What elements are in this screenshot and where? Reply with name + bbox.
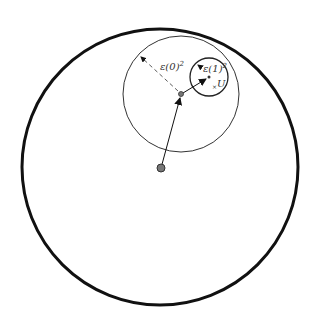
- inner-dot: [208, 76, 211, 79]
- label-epsilon-0: ε(0)2: [160, 60, 185, 72]
- vector-center-to-middle: [161, 98, 180, 168]
- label-U: U: [217, 78, 226, 89]
- middle-dot: [179, 92, 184, 97]
- center-dot: [157, 164, 165, 172]
- vector-middle-to-inner: [183, 79, 206, 93]
- radius-inner: [198, 65, 202, 68]
- diagram-canvas: ε(0)2 ε(1)2 × U: [0, 0, 316, 321]
- label-epsilon-1: ε(1)2: [203, 62, 228, 74]
